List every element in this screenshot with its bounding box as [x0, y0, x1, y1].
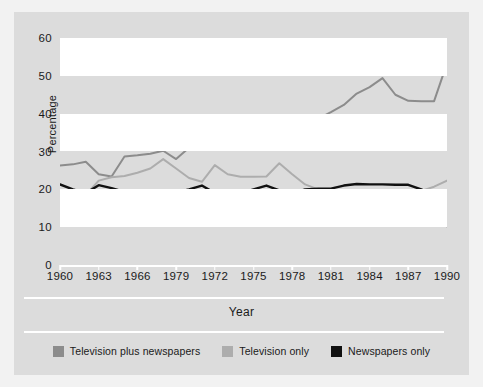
- separator-top: [24, 297, 444, 299]
- x-axis-tick-labels: 1960196319661979197219751978198119841987…: [0, 270, 483, 288]
- gridline-band: [60, 114, 447, 152]
- legend-swatch-icon: [331, 346, 342, 357]
- y-axis-title: Percentage: [46, 64, 58, 184]
- chart-figure: 0102030405060 Percentage 196019631966197…: [0, 0, 483, 387]
- legend-label: Television plus newspapers: [70, 345, 200, 357]
- x-axis-tick-label: 1960: [47, 270, 73, 282]
- x-axis-tick-label: 1984: [356, 270, 382, 282]
- x-axis-tick-label: 1975: [240, 270, 266, 282]
- x-axis-title: Year: [0, 305, 483, 319]
- legend-label: Newspapers only: [348, 345, 430, 357]
- x-axis-tick-label: 1990: [434, 270, 460, 282]
- x-axis-tick-label: 1963: [85, 270, 111, 282]
- legend-label: Television only: [239, 345, 309, 357]
- y-axis-tick-label: 20: [10, 183, 52, 195]
- x-axis-line: [60, 265, 448, 267]
- legend-swatch-icon: [53, 346, 64, 357]
- x-axis-tick-label: 1966: [124, 270, 150, 282]
- x-axis-tick-label: 1979: [163, 270, 189, 282]
- y-axis-tick-label: 10: [10, 221, 52, 233]
- separator-bottom: [24, 331, 444, 333]
- x-axis-tick-label: 1978: [279, 270, 305, 282]
- legend-item[interactable]: Television only: [222, 345, 309, 357]
- x-axis-tick-label: 1987: [395, 270, 421, 282]
- gridline-band: [60, 38, 447, 76]
- legend-swatch-icon: [222, 346, 233, 357]
- plot-area: [60, 38, 447, 265]
- legend-item[interactable]: Newspapers only: [331, 345, 430, 357]
- legend-item[interactable]: Television plus newspapers: [53, 345, 200, 357]
- y-axis-tick-label: 60: [10, 32, 52, 44]
- chart-legend: Television plus newspapersTelevision onl…: [0, 345, 483, 357]
- gridline-band: [60, 189, 447, 227]
- x-axis-tick-label: 1981: [318, 270, 344, 282]
- x-axis-tick-label: 1972: [202, 270, 228, 282]
